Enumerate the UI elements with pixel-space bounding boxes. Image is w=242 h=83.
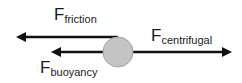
particle-circle bbox=[103, 37, 133, 67]
force-diagram: Ffriction Fcentrifugal Fbuoyancy bbox=[0, 0, 242, 83]
friction-subscript: friction bbox=[64, 13, 96, 25]
friction-arrow bbox=[16, 32, 118, 42]
buoyancy-label: Fbuoyancy bbox=[40, 58, 97, 78]
buoyancy-arrow bbox=[51, 47, 104, 57]
centrifugal-label: Fcentrifugal bbox=[151, 26, 212, 46]
centrifugal-arrow bbox=[132, 47, 232, 57]
friction-label: Ffriction bbox=[54, 5, 97, 25]
buoyancy-symbol: F bbox=[40, 58, 50, 77]
centrifugal-subscript: centrifugal bbox=[161, 34, 212, 46]
friction-symbol: F bbox=[54, 5, 64, 24]
buoyancy-subscript: buoyancy bbox=[50, 66, 97, 78]
centrifugal-symbol: F bbox=[151, 26, 161, 45]
